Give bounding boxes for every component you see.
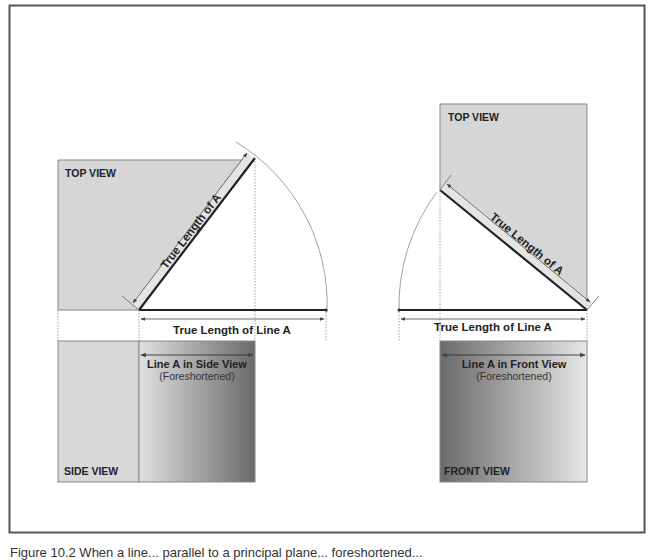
side-view-label: SIDE VIEW <box>64 465 118 477</box>
right-rotation-arc <box>399 192 437 312</box>
left-side-view-plain <box>58 341 139 482</box>
front-view-label: FRONT VIEW <box>444 465 510 477</box>
right-true-length-label: True Length of Line A <box>434 321 552 333</box>
right-projection-note: (Foreshortened) <box>476 370 551 382</box>
figure-caption: Figure 10.2 When a line... parallel to a… <box>10 545 423 560</box>
left-true-length-label: True Length of Line A <box>173 324 291 336</box>
left-figure: True Length of A TOP VIEW True Length of… <box>58 142 328 482</box>
left-top-view-label: TOP VIEW <box>65 167 116 179</box>
true-length-diagram: True Length of A TOP VIEW True Length of… <box>0 0 655 560</box>
left-rotation-arc <box>236 142 327 312</box>
right-projection-label: Line A in Front View <box>462 358 567 370</box>
right-top-view-label: TOP VIEW <box>448 111 499 123</box>
right-figure: True Length of A TOP VIEW True Length of… <box>398 104 600 482</box>
left-projection-note: (Foreshortened) <box>159 370 234 382</box>
left-projection-label: Line A in Side View <box>147 358 247 370</box>
